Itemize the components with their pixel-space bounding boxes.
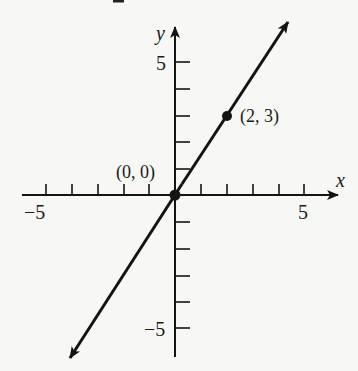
point-2-3: [222, 111, 232, 121]
y-tick-label-neg5: −5: [144, 318, 165, 340]
y-axis-label: y: [154, 22, 165, 45]
y-tick-label-5: 5: [156, 52, 166, 74]
x-axis-label: x: [335, 169, 345, 191]
line-series: [182, 22, 288, 184]
origin-point-label: (0, 0): [116, 162, 155, 183]
coordinate-plane: y x 5 −5 −5 5 (0, 0) (2, 3): [0, 0, 358, 371]
x-tick-label-5: 5: [298, 201, 308, 223]
point-2-3-label: (2, 3): [240, 106, 279, 127]
cropped-text-fragment: [113, 0, 124, 3]
point-origin: [170, 190, 181, 201]
x-tick-label-neg5: −5: [24, 201, 45, 223]
